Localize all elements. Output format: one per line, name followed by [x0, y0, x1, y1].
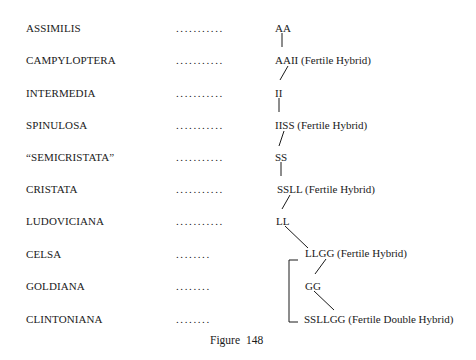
figure-caption: Figure 148 [210, 334, 263, 346]
leader-dots: ........... [176, 54, 224, 66]
leader-dots: ........... [176, 119, 224, 131]
species-clintoniana: CLINTONIANA [26, 313, 103, 325]
genome-iiss: IISS (Fertile Hybrid) [275, 119, 367, 131]
genome-aaii: AAII (Fertile Hybrid) [275, 54, 371, 66]
species-semicristata: “SEMICRISTATA” [26, 151, 114, 163]
genome-ll: LL [276, 215, 289, 227]
connector-iiss-ss [279, 131, 284, 146]
connector-llgg-gg [315, 259, 326, 274]
leader-dots: ........ [176, 313, 211, 325]
species-ludoviciana: LUDOVICIANA [26, 215, 104, 227]
species-cristata: CRISTATA [26, 183, 78, 195]
species-celsa: CELSA [26, 248, 61, 260]
genome-ssllgg: SSLLGG (Fertile Double Hybrid) [304, 313, 453, 325]
species-intermedia: INTERMEDIA [26, 87, 95, 99]
species-assimilis: ASSIMILIS [26, 22, 81, 34]
leader-dots: ........... [176, 22, 224, 34]
leader-dots: ........... [176, 87, 224, 99]
leader-dots: ........ [176, 248, 211, 260]
genome-ii: II [275, 87, 282, 99]
genome-ss: SS [275, 151, 287, 163]
bracket-celsa-clintoniana [289, 260, 298, 322]
species-spinulosa: SPINULOSA [26, 119, 87, 131]
leader-dots: ........... [176, 183, 224, 195]
connector-aaii-ii [280, 66, 288, 80]
leader-dots: ........... [176, 151, 224, 163]
genome-llgg: LLGG (Fertile Hybrid) [305, 247, 407, 259]
genome-ssll: SSLL (Fertile Hybrid) [277, 183, 375, 195]
species-campyloptera: CAMPYLOPTERA [26, 54, 116, 66]
genome-gg: GG [305, 280, 321, 292]
connector-ssll-ll [282, 195, 290, 209]
genome-aa: AA [275, 22, 291, 34]
leader-dots: ........ [176, 280, 211, 292]
leader-dots: ........... [176, 215, 224, 227]
connector-ll-llgg [285, 226, 308, 248]
species-goldiana: GOLDIANA [26, 280, 85, 292]
connector-gg-ssllgg [314, 291, 334, 310]
